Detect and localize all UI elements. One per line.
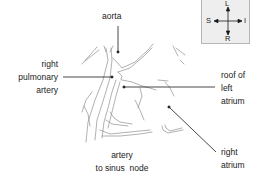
leader-lines [63, 26, 216, 152]
label-aorta-text: aorta [102, 11, 121, 21]
label-line: roof of [221, 69, 245, 82]
compass-label-left: S [206, 17, 211, 25]
compass-label-right: I [244, 17, 246, 25]
label-right-atrium: right atrium [221, 146, 245, 172]
label-artery-to-sinus-node: artery to sinus node [86, 149, 158, 175]
compass-label-top: L [225, 0, 229, 8]
label-line: right [221, 146, 245, 159]
label-line: atrium [221, 159, 245, 172]
label-line: atrium [221, 95, 245, 108]
label-line: artery [86, 149, 158, 162]
label-roof-of-left-atrium: roof of left atrium [221, 69, 245, 108]
label-line: right [0, 58, 58, 71]
orientation-compass: L S I R [201, 0, 250, 44]
label-aorta: aorta [102, 10, 121, 23]
anatomy-sketch-strokes [82, 44, 185, 142]
label-line: pulmonary [0, 71, 58, 84]
compass-label-bottom: R [225, 35, 230, 43]
label-line: to sinus node [86, 162, 158, 175]
label-right-pulmonary-artery: right pulmonary artery [0, 58, 58, 97]
label-line: left [221, 82, 245, 95]
label-line: artery [0, 84, 58, 97]
